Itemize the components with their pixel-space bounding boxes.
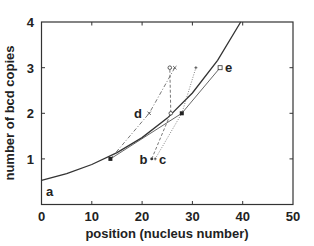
series-c-line [155, 68, 196, 159]
x-tick-50: 50 [286, 209, 300, 224]
x-tick-30: 30 [185, 209, 199, 224]
circle-marker [168, 66, 172, 70]
label-b: b [140, 152, 148, 167]
y-tick-1: 1 [27, 152, 34, 167]
chart: 0 10 20 30 40 50 1 2 3 4 position (nucle… [0, 0, 314, 246]
square-marker [108, 157, 112, 161]
x-tick-20: 20 [135, 209, 149, 224]
square-marker [180, 111, 184, 115]
label-d: d [134, 106, 142, 121]
y-tick-4: 4 [27, 15, 35, 30]
markers [108, 66, 222, 161]
square-marker [218, 66, 222, 70]
y-tick-3: 3 [27, 61, 34, 76]
x-tick-0: 0 [38, 209, 45, 224]
x-tick-10: 10 [85, 209, 99, 224]
y-axis-label: number of bcd copies [2, 45, 17, 180]
label-a: a [46, 184, 54, 199]
label-e: e [225, 60, 232, 75]
x-tick-40: 40 [235, 209, 249, 224]
series-d-line [110, 68, 174, 159]
plot-frame [42, 22, 294, 205]
y-tick-2: 2 [27, 106, 34, 121]
x-axis-ticks [92, 22, 243, 205]
label-c: c [159, 152, 166, 167]
series-e-line [110, 68, 220, 159]
x-axis-label: position (nucleus number) [85, 226, 248, 241]
circle-marker [169, 112, 173, 116]
circle-marker [150, 158, 153, 161]
series-b-line [152, 68, 171, 159]
